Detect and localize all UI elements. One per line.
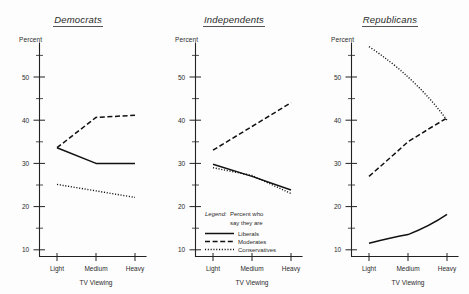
svg-text:Heavy: Heavy [126, 265, 145, 273]
svg-text:30: 30 [22, 160, 30, 167]
legend-label-moderates: Moderates [238, 239, 266, 245]
plot-democrats: 10 20 30 40 50 Light Medium Heavy TV Vie… [0, 0, 156, 294]
svg-text:20: 20 [178, 203, 186, 210]
x-tick-labels: Light Medium Heavy [50, 265, 145, 273]
x-axis-title: TV Viewing [236, 279, 269, 287]
svg-text:30: 30 [178, 160, 186, 167]
series-line-moderates [213, 103, 291, 151]
legend-label-liberals: Liberals [238, 231, 259, 237]
legend-title-label: Legend: [205, 211, 227, 217]
svg-text:Light: Light [206, 265, 220, 273]
y-tick-labels: 10 20 30 40 50 [334, 74, 342, 254]
series-line-liberals [369, 214, 447, 243]
svg-text:Light: Light [50, 265, 64, 273]
svg-text:40: 40 [22, 117, 30, 124]
svg-text:Heavy: Heavy [438, 265, 457, 273]
axes-republicans: 10 20 30 40 50 Light Medium Heavy TV Vie… [334, 43, 458, 287]
plot-republicans: 10 20 30 40 50 Light Medium Heavy TV Vie… [312, 0, 469, 294]
axis-lines [40, 43, 147, 257]
svg-text:Medium: Medium [240, 265, 263, 272]
plot-independents: 10 20 30 40 50 Light Medium Heavy TV Vie… [156, 0, 312, 294]
series-line-moderates [57, 115, 135, 147]
series-line-liberals [57, 148, 135, 164]
x-tick-labels: Light Medium Heavy [362, 265, 457, 273]
y-tick-labels: 10 20 30 40 50 [178, 74, 186, 254]
series-line-conservatives [57, 184, 135, 197]
svg-text:Heavy: Heavy [282, 265, 301, 273]
svg-text:50: 50 [334, 74, 342, 81]
x-axis-title: TV Viewing [392, 279, 425, 287]
series-line-conservatives [369, 47, 447, 121]
legend-title-line3: say they are [230, 220, 263, 226]
panel-democrats: Democrats Percent [0, 0, 156, 294]
panel-republicans: Republicans Percent [312, 0, 468, 294]
y-tick-labels: 10 20 30 40 50 [22, 74, 30, 254]
svg-text:10: 10 [22, 246, 30, 253]
series-group-democrats [57, 115, 135, 197]
svg-text:50: 50 [22, 74, 30, 81]
svg-text:Medium: Medium [84, 265, 107, 272]
legend: Legend: Percent who say they are Liberal… [205, 211, 276, 253]
series-line-moderates [369, 118, 447, 176]
series-group-republicans [369, 47, 447, 244]
svg-text:10: 10 [334, 246, 342, 253]
axes-democrats: 10 20 30 40 50 Light Medium Heavy TV Vie… [22, 43, 146, 287]
legend-entry-liberals: Liberals [205, 231, 259, 237]
series-line-conservatives [213, 168, 291, 194]
series-line-liberals [213, 164, 291, 190]
svg-text:40: 40 [178, 117, 186, 124]
svg-text:Light: Light [362, 265, 376, 273]
legend-label-conservatives: Conservatives [238, 247, 276, 253]
legend-title-line2: Percent who [230, 211, 264, 217]
svg-text:20: 20 [22, 203, 30, 210]
figure-canvas: Democrats Percent [0, 0, 469, 294]
legend-entry-conservatives: Conservatives [205, 247, 276, 253]
x-tick-labels: Light Medium Heavy [206, 265, 301, 273]
x-axis-title: TV Viewing [80, 279, 113, 287]
svg-text:40: 40 [334, 117, 342, 124]
svg-text:50: 50 [178, 74, 186, 81]
svg-text:Medium: Medium [396, 265, 419, 272]
svg-text:10: 10 [178, 246, 186, 253]
svg-text:30: 30 [334, 160, 342, 167]
legend-entry-moderates: Moderates [205, 239, 266, 245]
svg-text:20: 20 [334, 203, 342, 210]
panel-independents: Independents Percent [156, 0, 312, 294]
axis-lines [352, 43, 459, 257]
series-group-independents [213, 103, 291, 194]
